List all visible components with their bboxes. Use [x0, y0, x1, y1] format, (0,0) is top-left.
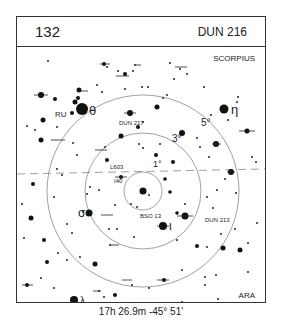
object-label-bso13: BSO 13 [140, 213, 162, 219]
object-name: DUN 216 [198, 25, 247, 39]
star-label-sigma: σ [78, 206, 86, 220]
chart-number: 132 [35, 23, 60, 40]
stars [21, 60, 258, 302]
star-label-ru: RU [55, 110, 67, 119]
star-label-lambda: λ [80, 295, 85, 302]
object-label-dun213: DUN 213 [205, 217, 230, 223]
declination-line [17, 169, 265, 174]
coordinates-caption: 17h 26.9m -45° 51' [0, 306, 282, 317]
constellation-scorpius: SCORPIUS [213, 54, 255, 63]
object-label-i40: I40 [114, 178, 123, 184]
star-label-iota: ι [169, 219, 172, 233]
star-label-theta: θ [89, 103, 96, 118]
chart-header: 132 DUN 216 [17, 17, 265, 47]
ring-label-5: 5° [201, 117, 211, 128]
ring-label-1: 1° [153, 159, 162, 169]
star-label-eta: η [231, 102, 238, 117]
star-field: SCORPIUS ARA 5° 3° 1° θ η σ ι λ RU DUN 2… [17, 47, 265, 302]
finder-chart-frame: 132 DUN 216 [16, 16, 266, 303]
object-label-l603: L603 [110, 164, 124, 170]
constellation-ara: ARA [239, 291, 256, 300]
object-label-dun217: DUN 217 [119, 120, 144, 126]
ring-label-3: 3° [172, 133, 182, 144]
